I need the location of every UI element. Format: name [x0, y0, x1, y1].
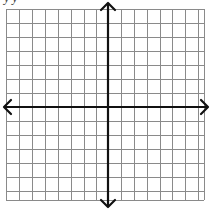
grid-lines: [6, 9, 205, 201]
coordinate-plane: [0, 0, 211, 210]
axes: [4, 3, 208, 207]
